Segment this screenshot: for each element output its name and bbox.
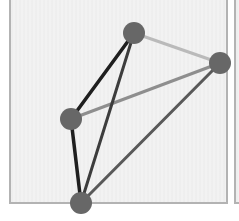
- graph-node-right: [209, 52, 231, 74]
- graph-node-top: [123, 22, 145, 44]
- graph-node-bottom: [70, 192, 92, 214]
- figure-canvas: [0, 0, 239, 221]
- graph-node-left: [60, 108, 82, 130]
- graph-edge-top-right: [134, 33, 220, 63]
- graph-edge-left-bottom: [71, 119, 81, 203]
- graph-diagram: [0, 0, 239, 221]
